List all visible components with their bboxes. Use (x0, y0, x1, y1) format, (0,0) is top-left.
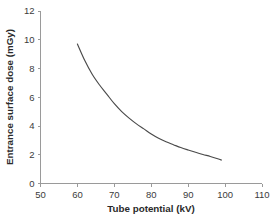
plot-background (40, 11, 262, 183)
x-tick-label-50: 50 (35, 189, 46, 200)
y-tick-label-12: 12 (24, 5, 35, 16)
x-tick-label-100: 100 (217, 189, 233, 200)
y-tick-label-8: 8 (29, 63, 34, 74)
y-tick-label-6: 6 (29, 92, 34, 103)
y-tick-label-0: 0 (29, 178, 34, 189)
y-tick-label-10: 10 (24, 34, 35, 45)
caption-strip (0, 216, 277, 224)
y-axis-title: Entrance surface dose (mGy) (4, 29, 15, 165)
figure-container: 024681012 5060708090100110 Tube potentia… (0, 0, 277, 224)
x-tick-label-110: 110 (254, 189, 269, 200)
x-tick-label-60: 60 (72, 189, 83, 200)
y-tick-label-2: 2 (29, 149, 34, 160)
x-tick-label-70: 70 (109, 189, 120, 200)
y-tick-label-4: 4 (29, 120, 34, 131)
x-axis-title: Tube potential (kV) (107, 203, 194, 214)
line-chart: 024681012 5060708090100110 Tube potentia… (0, 0, 277, 224)
x-axis-tick-labels: 5060708090100110 (35, 189, 269, 200)
x-tick-label-90: 90 (183, 189, 194, 200)
x-axis: 5060708090100110 (35, 184, 269, 200)
y-axis-tick-labels: 024681012 (24, 5, 35, 189)
x-tick-label-80: 80 (146, 189, 157, 200)
y-axis: 024681012 (24, 5, 41, 189)
